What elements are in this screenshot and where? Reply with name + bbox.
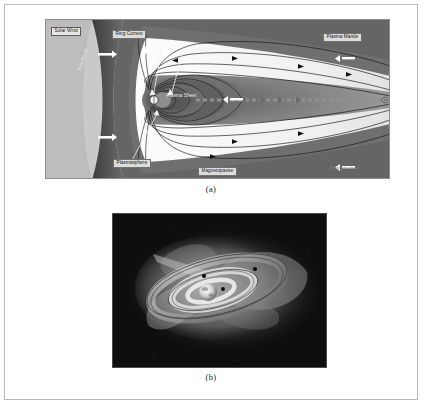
label-magnetosheath: Magnetosheath [328, 165, 363, 172]
label-magnetopause: Magnetopause [198, 167, 237, 176]
panel-a-container: Solar Wind Bow Shock Ring Current Tail L… [45, 19, 390, 179]
earth-sphere [199, 283, 217, 301]
panel-b-graphics [113, 214, 327, 368]
magnetosphere-cross-section-diagram: Solar Wind Bow Shock Ring Current Tail L… [45, 19, 390, 179]
label-solar-wind: Solar Wind [51, 27, 81, 36]
label-plasma-sheet: Plasma Sheet [164, 93, 199, 100]
caption-panel-a: (a) [5, 184, 417, 194]
label-plasmasphere: Plasmasphere [113, 159, 151, 168]
label-ring-current: Ring Current [112, 30, 146, 39]
caption-panel-b: (b) [5, 372, 417, 382]
label-tail-lobe: Tail Lobe [190, 47, 214, 54]
panel-b-container [112, 213, 327, 368]
label-plasma-mantle: Plasma Mantle [323, 33, 362, 42]
figure-frame: Solar Wind Bow Shock Ring Current Tail L… [4, 4, 418, 400]
panel-a-graphics [46, 20, 390, 179]
radiation-belt-3d-rendering [112, 213, 327, 368]
